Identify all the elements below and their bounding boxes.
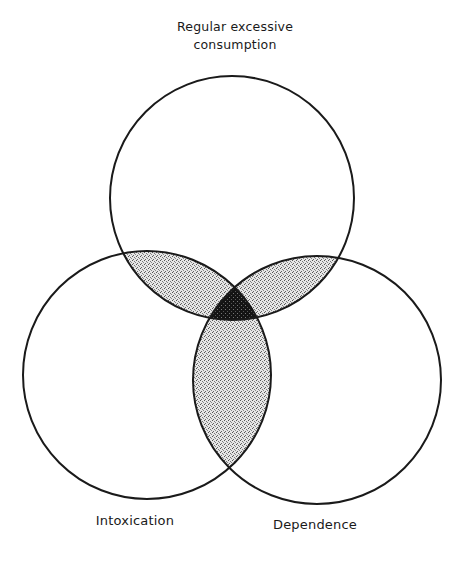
label-intoxication: Intoxication [60,512,210,530]
label-top-line2: consumption [130,36,340,54]
venn-diagram: Regular excessive consumption Intoxicati… [0,0,460,561]
label-dependence: Dependence [240,516,390,534]
venn-diagram-graphic [0,0,460,561]
label-top-line1: Regular excessive [130,18,340,36]
label-regular-excessive-consumption: Regular excessive consumption [130,18,340,54]
